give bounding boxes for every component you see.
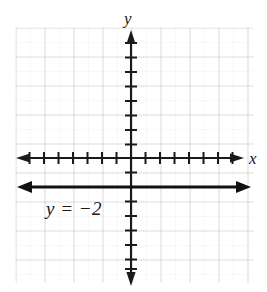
x-axis-label: x — [249, 150, 257, 167]
graph-figure: y x y = −2 — [0, 0, 267, 292]
coordinate-plane-svg — [0, 0, 267, 292]
equation-label: y = −2 — [46, 198, 102, 220]
y-axis-label: y — [124, 10, 132, 27]
